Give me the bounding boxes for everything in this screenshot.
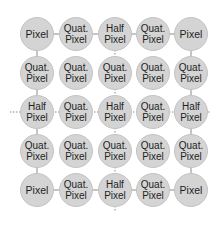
- grid-node: HalfPixel: [174, 95, 208, 129]
- node-label-line1: Half: [106, 23, 124, 34]
- node-label-line2: Pixel: [26, 73, 48, 84]
- node-label-line1: Quat.: [103, 140, 127, 151]
- node-label-line2: Pixel: [104, 73, 126, 84]
- node-label-line2: Pixel: [104, 34, 126, 45]
- grid-node: Quat.Pixel: [136, 95, 170, 129]
- node-label-line1: Quat.: [64, 179, 88, 190]
- node-label-line1: Quat.: [141, 179, 165, 190]
- node-label-line1: Quat.: [25, 140, 49, 151]
- grid-node: Quat.Pixel: [98, 56, 132, 90]
- node-label-line1: Quat.: [141, 140, 165, 151]
- grid-node: Pixel: [174, 17, 208, 51]
- node-label-line2: Pixel: [65, 112, 87, 123]
- grid-node: Quat.Pixel: [20, 56, 54, 90]
- grid-node: Quat.Pixel: [136, 56, 170, 90]
- node-label-line1: Quat.: [141, 23, 165, 34]
- grid-node: Quat.Pixel: [136, 17, 170, 51]
- node-label-line2: Pixel: [65, 151, 87, 162]
- node-label-line1: Quat.: [64, 23, 88, 34]
- grid-node: Pixel: [20, 173, 54, 207]
- node-label-line1: Half: [182, 101, 200, 112]
- grid-node: Pixel: [20, 17, 54, 51]
- grid-node: HalfPixel: [98, 95, 132, 129]
- node-label-line2: Pixel: [180, 73, 202, 84]
- node-label-line2: Pixel: [65, 190, 87, 201]
- node-label-line1: Quat.: [64, 140, 88, 151]
- node-label-line2: Pixel: [104, 190, 126, 201]
- node-label-line2: Pixel: [142, 34, 164, 45]
- node-label-line2: Pixel: [142, 190, 164, 201]
- grid-node: HalfPixel: [98, 17, 132, 51]
- node-label-line2: Pixel: [65, 73, 87, 84]
- node-label-line2: Pixel: [180, 151, 202, 162]
- node-label-line1: Pixel: [26, 185, 49, 196]
- node-label-line2: Pixel: [26, 112, 48, 123]
- node-label-line1: Pixel: [180, 185, 203, 196]
- grid-node: Quat.Pixel: [59, 173, 93, 207]
- node-label-line1: Half: [106, 101, 124, 112]
- grid-node: Quat.Pixel: [59, 17, 93, 51]
- node-label-line2: Pixel: [142, 73, 164, 84]
- grid-node: Quat.Pixel: [136, 173, 170, 207]
- grid-node: Quat.Pixel: [174, 56, 208, 90]
- grid-node: Quat.Pixel: [98, 134, 132, 168]
- grid-node: Quat.Pixel: [59, 95, 93, 129]
- node-label-line2: Pixel: [142, 112, 164, 123]
- node-label-line2: Pixel: [104, 151, 126, 162]
- node-label-line1: Quat.: [64, 101, 88, 112]
- node-label-line1: Half: [106, 179, 124, 190]
- grid-node: HalfPixel: [20, 95, 54, 129]
- node-label-line2: Pixel: [180, 112, 202, 123]
- node-label-line1: Half: [28, 101, 46, 112]
- grid-node: HalfPixel: [98, 173, 132, 207]
- grid-node: Quat.Pixel: [174, 134, 208, 168]
- node-label-line1: Quat.: [179, 62, 203, 73]
- grid-node: Pixel: [174, 173, 208, 207]
- node-label-line1: Quat.: [103, 62, 127, 73]
- node-label-line2: Pixel: [26, 151, 48, 162]
- node-label-line1: Quat.: [141, 101, 165, 112]
- grid-node: Quat.Pixel: [136, 134, 170, 168]
- node-label-line1: Quat.: [179, 140, 203, 151]
- node-label-line1: Pixel: [180, 29, 203, 40]
- node-label-line1: Quat.: [141, 62, 165, 73]
- node-label-line1: Quat.: [25, 62, 49, 73]
- grid-node: Quat.Pixel: [20, 134, 54, 168]
- grid-node: Quat.Pixel: [59, 134, 93, 168]
- node-label-line2: Pixel: [65, 34, 87, 45]
- grid-node: Quat.Pixel: [59, 56, 93, 90]
- node-label-line1: Quat.: [64, 62, 88, 73]
- node-label-line1: Pixel: [26, 29, 49, 40]
- node-label-line2: Pixel: [104, 112, 126, 123]
- node-label-line2: Pixel: [142, 151, 164, 162]
